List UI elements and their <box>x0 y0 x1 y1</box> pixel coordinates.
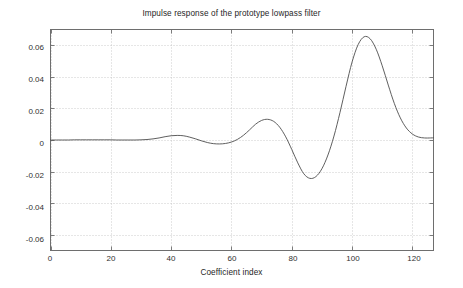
plot-area <box>0 0 463 288</box>
figure-canvas: Impulse response of the prototype lowpas… <box>0 0 463 288</box>
impulse-response-line <box>51 36 434 178</box>
